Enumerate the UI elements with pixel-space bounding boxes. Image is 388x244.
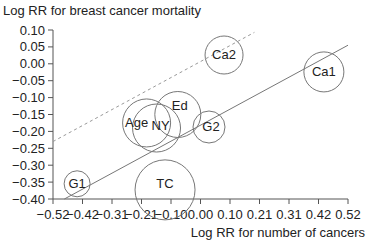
y-axis: 0.100.050.00−0.05−0.10−0.15−0.20−0.25−0.…	[12, 23, 53, 207]
y-tick-label: −0.20	[12, 124, 45, 139]
x-axis-title: Log RR for number of cancers	[191, 225, 366, 240]
x-tick-label: 0.31	[276, 207, 301, 222]
y-tick-label: −0.40	[12, 192, 45, 207]
y-tick-label: −0.25	[12, 141, 45, 156]
bubble-label: G2	[202, 119, 219, 134]
bubble-label: Ca1	[312, 64, 336, 79]
y-tick-label: −0.15	[12, 107, 45, 122]
y-tick-label: 0.00	[20, 56, 45, 71]
x-tick-label: −0.52	[37, 207, 70, 222]
x-tick-label: 0.21	[247, 207, 272, 222]
x-tick-label: 0.10	[217, 207, 242, 222]
y-tick-label: −0.10	[12, 90, 45, 105]
y-tick-label: −0.35	[12, 175, 45, 190]
y-tick-label: 0.10	[20, 23, 45, 38]
bubble-label: TC	[156, 176, 173, 191]
bubble-label: Ca2	[212, 47, 236, 62]
x-tick-label: −0.31	[96, 207, 129, 222]
x-tick-label: −0.42	[66, 207, 99, 222]
x-tick-label: 0.00	[188, 207, 213, 222]
bubble-label: NY	[152, 118, 170, 133]
y-tick-label: 0.05	[20, 39, 45, 54]
bubble-label: Age	[125, 115, 148, 130]
y-axis-title: Log RR for breast cancer mortality	[3, 3, 201, 18]
bubble-label: Ed	[172, 98, 188, 113]
y-tick-label: −0.05	[12, 73, 45, 88]
y-tick-label: −0.30	[12, 158, 45, 173]
x-tick-label: 0.52	[335, 207, 360, 222]
x-tick-label: 0.42	[306, 207, 331, 222]
bubbles: G1TCAgeNYEdG2Ca2Ca1	[64, 36, 344, 220]
x-axis: −0.52−0.42−0.31−0.21−0.100.000.100.210.3…	[37, 199, 361, 222]
bubble-chart: Log RR for breast cancer mortality 0.100…	[0, 0, 388, 244]
bubble-label: G1	[68, 176, 85, 191]
